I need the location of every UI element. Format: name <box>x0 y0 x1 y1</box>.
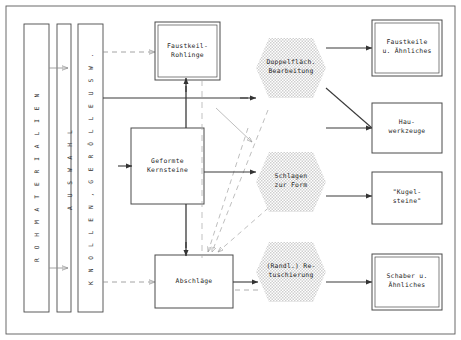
column-label-rohmaterialien: R O H M A T E R I A L I E N <box>33 91 40 262</box>
diagram-canvas: R O H M A T E R I A L I E N A U S W A H … <box>0 0 461 340</box>
box-faustkeil-rohlinge <box>155 22 220 80</box>
box-hauwerkzeuge <box>372 103 442 153</box>
box-geformte-kernsteine <box>131 128 204 204</box>
box-faustkeile <box>372 20 442 76</box>
column-label-auswahl: A U S W A H L <box>66 128 73 210</box>
hex-schlagen-zur-form <box>256 152 326 212</box>
box-kugelsteine <box>372 172 442 224</box>
hex-doppelflaech-bearbeitung <box>256 38 326 98</box>
column-label-knollen: K N O L L E N , G E R Ö L L E U S W . <box>87 51 94 285</box>
box-abschlaege <box>155 255 233 308</box>
hex-randl-retuschierung <box>256 242 326 302</box>
box-schaber <box>372 254 442 310</box>
